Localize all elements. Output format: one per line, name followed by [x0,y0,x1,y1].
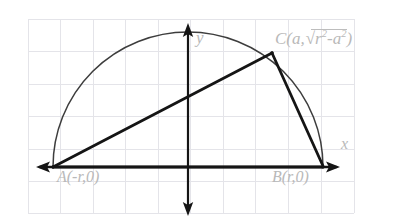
sqrt-glyph: √r2-a2 [305,28,347,49]
point-label-A: A(-r,0) [57,168,99,186]
point-label-C-prefix: C(a, [275,29,305,48]
radicand-r: r [315,29,322,48]
point-label-C: C(a,√r2-a2) [275,28,352,49]
segment-AC [53,53,272,167]
vertex-B-dot [321,165,324,168]
radical-overbar [311,29,348,30]
vertex-C-dot [270,51,274,55]
y-axis [183,23,193,216]
x-axis-label: x [341,135,348,153]
point-label-C-suffix: ) [346,29,352,48]
vertex-A-dot [51,165,54,168]
radicand-a: a [333,29,342,48]
point-label-B: B(r,0) [272,168,309,186]
y-axis-label: y [196,28,204,48]
geometry-sketch-canvas: A(-r,0) B(r,0) C(a,√r2-a2) x y [0,0,395,223]
